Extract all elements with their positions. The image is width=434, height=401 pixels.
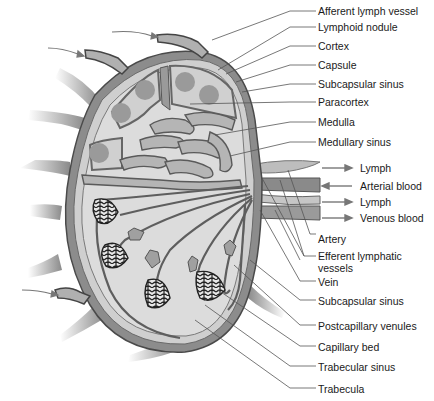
label-medulla: Medulla [318,116,355,128]
label-arterial-blood: Arterial blood [360,180,422,192]
label-paracortex: Paracortex [318,96,369,108]
label-venous-blood: Venous blood [360,212,424,224]
label-efferent-lymphatic-vessels: Efferent lymphatic vessels [318,250,418,274]
label-trabecula: Trabecula [318,383,364,395]
label-afferent-lymph-vessel: Afferent lymph vessel [318,5,418,17]
label-trabecular-sinus: Trabecular sinus [318,361,395,373]
hilum-flow-arrows [322,165,352,221]
label-capillary-bed: Capillary bed [318,341,379,353]
label-lymphoid-nodule: Lymphoid nodule [318,21,398,33]
label-medullary-sinus: Medullary sinus [318,136,391,148]
label-postcapillary-venules: Postcapillary venules [318,320,417,332]
label-vein: Vein [318,276,338,288]
label-capsule: Capsule [318,59,357,71]
label-lymph-2: Lymph [360,196,391,208]
label-lymph-1: Lymph [360,162,391,174]
label-artery: Artery [318,233,346,245]
label-subcapsular-sinus-bottom: Subcapsular sinus [318,295,404,307]
label-cortex: Cortex [318,40,349,52]
label-subcapsular-sinus-top: Subcapsular sinus [318,78,404,90]
trabecula [160,66,170,110]
